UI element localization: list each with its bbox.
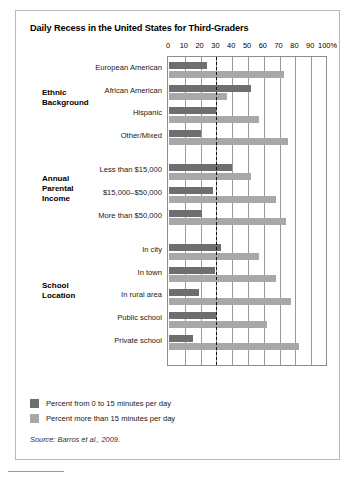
x-tick-20: 20 [195,41,203,50]
category-label-9: In rural area [121,290,162,299]
bar-0-1 [169,85,251,92]
category-label-1: African American [105,86,162,95]
bar-0-7 [169,244,221,251]
chart-legend: Percent from 0 to 15 minutes per dayPerc… [30,399,310,429]
gridline-70 [280,57,281,365]
legend-item-1: Percent more than 15 minutes per day [30,414,310,423]
x-tick-80: 80 [290,41,298,50]
page-rule [8,471,64,472]
bar-1-5 [169,196,276,203]
x-tick-40: 40 [227,41,235,50]
gridline-50 [248,57,249,365]
x-tick-10: 10 [180,41,188,50]
category-label-11: Private school [114,336,162,345]
bar-0-5 [169,187,213,194]
x-tick-90: 90 [306,41,314,50]
category-label-8: In town [138,268,162,277]
bar-1-7 [169,253,259,260]
legend-swatch-light [30,414,39,423]
x-tick-50: 50 [243,41,251,50]
x-tick-30: 30 [211,41,219,50]
legend-label-1: Percent more than 15 minutes per day [46,414,175,423]
x-tick-60: 60 [259,41,267,50]
bar-0-6 [169,210,202,217]
category-label-6: More than $50,000 [98,211,162,220]
bar-1-3 [169,138,288,145]
category-label-7: In city [142,245,162,254]
chart-title: Daily Recess in the United States for Th… [30,23,249,33]
x-axis-tick-labels: 0102030405060708090100% [167,41,327,55]
category-label-column: European AmericanAfrican AmericanHispani… [16,56,162,366]
category-label-4: Less than $15,000 [100,165,163,174]
category-label-5: $15,000–$50,000 [103,188,162,197]
legend-swatch-dark [30,399,39,408]
bar-1-10 [169,321,267,328]
bar-1-9 [169,298,291,305]
gridline-90 [311,57,312,365]
figure-panel: Daily Recess in the United States for Th… [15,10,340,460]
gridline-80 [295,57,296,365]
plot-wrapper: 0102030405060708090100% [167,41,327,366]
bar-1-11 [169,343,299,350]
bar-0-9 [169,289,199,296]
gridline-40 [232,57,233,365]
bar-0-10 [169,312,216,319]
category-label-3: Other/Mixed [121,131,162,140]
category-label-10: Public school [117,313,162,322]
bar-0-4 [169,164,232,171]
bar-1-8 [169,275,276,282]
bar-0-3 [169,130,201,137]
category-label-0: European American [95,63,162,72]
legend-item-0: Percent from 0 to 15 minutes per day [30,399,310,408]
gridline-60 [264,57,265,365]
reference-line-30 [216,57,217,365]
bar-0-11 [169,335,193,342]
group-label-2: School Location [42,281,75,301]
group-label-1: Annual Parental Income [42,174,74,204]
bar-1-0 [169,71,284,78]
bar-1-1 [169,93,227,100]
plot-area [167,56,327,366]
x-tick-100: 100% [318,41,337,50]
source-note: Source: Barros et al., 2009. [30,435,120,444]
bar-1-6 [169,218,286,225]
bar-0-0 [169,62,207,69]
x-tick-0: 0 [166,41,170,50]
group-label-0: Ethnic Background [42,88,89,108]
bar-0-2 [169,107,216,114]
bar-1-2 [169,116,259,123]
bar-0-8 [169,267,215,274]
category-label-2: Hispanic [133,108,162,117]
x-tick-70: 70 [274,41,282,50]
bar-1-4 [169,173,251,180]
legend-label-0: Percent from 0 to 15 minutes per day [46,399,171,408]
